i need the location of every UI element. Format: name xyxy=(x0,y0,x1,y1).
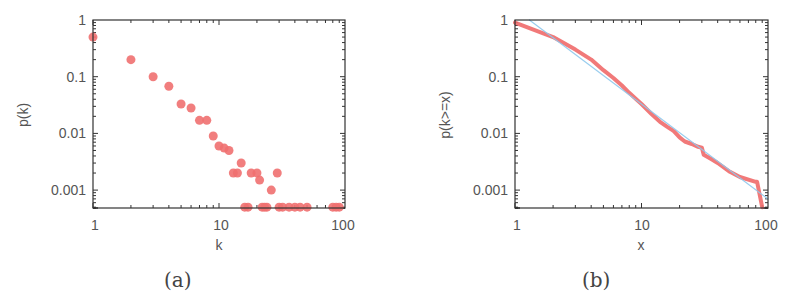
chart-a-points xyxy=(89,33,344,212)
chart-b-xtick-10: 10 xyxy=(634,217,650,233)
chart-a-ylabel: p(k) xyxy=(15,103,31,127)
chart-a-ytick-0.1: 0.1 xyxy=(67,69,87,85)
chart-a-xtick-1: 1 xyxy=(91,217,99,233)
chart-b: 1 0.1 0.01 0.001 1 10 100 x p(k>=x) xyxy=(395,0,790,308)
chart-a-xtick-100: 100 xyxy=(331,217,355,233)
chart-b-ytick-0.1: 0.1 xyxy=(489,69,509,85)
chart-b-xtick-100: 100 xyxy=(754,217,778,233)
chart-b-ytick-1: 1 xyxy=(500,12,508,28)
chart-b-ytick-0.001: 0.001 xyxy=(473,182,508,198)
chart-a-frame xyxy=(93,20,345,208)
chart-a-xtick-10: 10 xyxy=(213,217,229,233)
chart-b-ylabel: p(k>=x) xyxy=(437,91,453,138)
chart-a-ytick-0.001: 0.001 xyxy=(51,182,86,198)
chart-b-ticks xyxy=(515,20,768,208)
chart-b-frame xyxy=(515,20,768,208)
caption-b: (b) xyxy=(582,268,610,292)
chart-a-ytick-0.01: 0.01 xyxy=(59,125,86,141)
chart-b-xtick-1: 1 xyxy=(513,217,521,233)
chart-b-xlabel: x xyxy=(638,237,645,253)
chart-a-xlabel: k xyxy=(216,237,224,253)
chart-a-ticks xyxy=(93,20,345,208)
chart-a: 1 0.1 0.01 0.001 1 10 100 k p(k) xyxy=(0,0,395,308)
chart-b-ytick-0.01: 0.01 xyxy=(481,125,508,141)
chart-a-ytick-1: 1 xyxy=(78,12,86,28)
caption-a: (a) xyxy=(164,268,192,292)
chart-b-lines xyxy=(515,20,768,207)
